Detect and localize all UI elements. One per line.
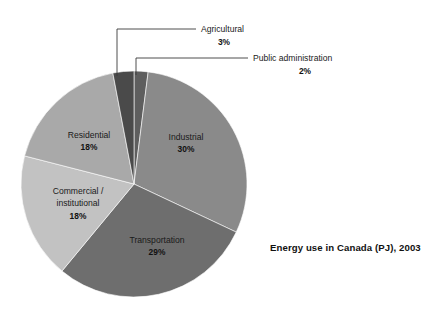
slice-label-residential: Residential bbox=[68, 130, 111, 140]
chart-page: Industrial 30% Transportation 29% Commer… bbox=[0, 0, 443, 311]
callout-label-public-administration: Public administration bbox=[253, 53, 333, 63]
slice-label-commercial-institutional-line1: Commercial / bbox=[53, 186, 104, 196]
slice-percent-transportation: 29% bbox=[149, 247, 166, 257]
callout-labels: Agricultural 3% Public administration 2% bbox=[201, 24, 333, 76]
slice-percent-industrial: 30% bbox=[178, 144, 195, 154]
slice-label-industrial: Industrial bbox=[169, 132, 204, 142]
leader-line-agricultural bbox=[117, 29, 196, 76]
callout-percent-agricultural: 3% bbox=[218, 37, 231, 47]
slice-label-transportation: Transportation bbox=[129, 235, 184, 245]
pie-slices bbox=[21, 71, 247, 297]
chart-title: Energy use in Canada (PJ), 2003 bbox=[270, 242, 421, 253]
callout-percent-public-administration: 2% bbox=[299, 66, 312, 76]
slice-label-commercial-institutional-line2: institutional bbox=[57, 198, 100, 208]
slice-percent-commercial-institutional: 18% bbox=[70, 211, 87, 221]
callout-label-agricultural: Agricultural bbox=[201, 24, 244, 34]
pie-chart: Industrial 30% Transportation 29% Commer… bbox=[0, 0, 443, 311]
slice-percent-residential: 18% bbox=[81, 142, 98, 152]
